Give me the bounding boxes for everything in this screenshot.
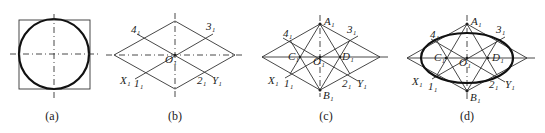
isometric-ellipse-figure: (a) 4₁ 3₁ O₁ X₁ 1₁ 2₁ Y₁ (b) A₁ xyxy=(0,0,545,133)
label-2: 2₁ xyxy=(489,78,499,90)
caption-d: (d) xyxy=(460,109,474,123)
label-b: B₁ xyxy=(470,91,481,103)
label-o: O₁ xyxy=(313,55,325,67)
label-o: O₁ xyxy=(459,56,471,68)
label-3: 3₁ xyxy=(346,23,357,35)
label-4: 4₁ xyxy=(283,27,293,39)
label-1: 1₁ xyxy=(134,77,144,89)
label-4: 4₁ xyxy=(131,23,141,35)
label-3: 3₁ xyxy=(205,20,216,32)
label-1: 1₁ xyxy=(428,80,438,92)
label-4: 4₁ xyxy=(430,28,440,40)
label-2: 2₁ xyxy=(342,77,352,89)
panel-c: A₁ 4₁ 3₁ C₁ O₁ D₁ X₁ 1₁ 2₁ Y₁ B₁ (c) xyxy=(262,15,388,123)
label-b: B₁ xyxy=(323,89,334,101)
label-a: A₁ xyxy=(323,15,335,27)
caption-b: (b) xyxy=(168,109,182,123)
label-d: D₁ xyxy=(491,51,504,63)
label-y: Y₁ xyxy=(212,74,222,86)
label-1: 1₁ xyxy=(284,77,294,89)
label-y: Y₁ xyxy=(505,78,515,90)
label-3: 3₁ xyxy=(495,23,506,35)
label-d: D₁ xyxy=(341,50,354,62)
label-2: 2₁ xyxy=(197,74,207,86)
line-a-2 xyxy=(467,24,497,75)
panel-b: 4₁ 3₁ O₁ X₁ 1₁ 2₁ Y₁ (b) xyxy=(106,13,245,123)
label-a: A₁ xyxy=(470,15,482,27)
panel-a: (a) xyxy=(10,14,98,123)
label-x: X₁ xyxy=(119,74,131,86)
label-c: C₁ xyxy=(434,51,445,63)
panel-d: A₁ 4₁ 3₁ C₁ O₁ D₁ X₁ 1₁ 2₁ Y₁ B₁ (d) xyxy=(407,15,535,123)
label-x: X₁ xyxy=(267,74,279,86)
caption-c: (c) xyxy=(319,109,332,123)
label-y: Y₁ xyxy=(357,77,367,89)
label-o: O₁ xyxy=(165,53,177,65)
caption-a: (a) xyxy=(45,109,58,123)
label-c: C₁ xyxy=(288,50,299,62)
label-x: X₁ xyxy=(411,75,423,87)
